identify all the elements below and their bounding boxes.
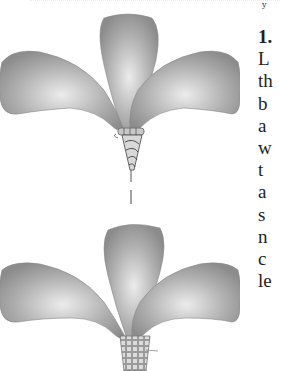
text-fragment: a bbox=[258, 181, 287, 203]
text-fragment: b bbox=[258, 93, 287, 115]
flower-illustration-bottom bbox=[0, 190, 240, 371]
left-petal bbox=[0, 263, 126, 339]
text-fragment: n bbox=[258, 226, 287, 248]
step-number: 1. bbox=[258, 26, 287, 48]
text-fragment: le bbox=[258, 270, 287, 292]
text-fragment: c bbox=[258, 248, 287, 270]
text-fragment: s bbox=[258, 204, 287, 226]
instruction-text-column: 1. L th b a w t a s n c le bbox=[258, 26, 287, 292]
text-fragment: th bbox=[258, 70, 287, 92]
cut-off-text-line bbox=[30, 0, 280, 7]
wire-binding bbox=[118, 128, 144, 135]
text-fragment: t bbox=[258, 159, 287, 181]
text-fragment: w bbox=[258, 137, 287, 159]
cut-off-text-fragment: y bbox=[262, 0, 267, 9]
text-fragment: a bbox=[258, 115, 287, 137]
woven-base bbox=[120, 336, 150, 371]
flower-illustration-top bbox=[0, 10, 240, 182]
text-fragment: L bbox=[258, 48, 287, 70]
